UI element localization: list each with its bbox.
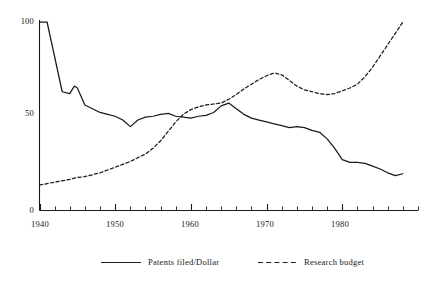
series-line-patents-filed-dollar (40, 22, 403, 176)
x-tick-label-1970: 1970 (247, 219, 283, 229)
chart-axes (40, 20, 419, 211)
y-tick-label-100: 100 (8, 16, 34, 26)
legend-item-research-budget: Research budget (304, 257, 364, 267)
x-axis-ticks (41, 204, 419, 211)
y-tick-label-50: 50 (8, 108, 34, 118)
y-tick-label-0: 0 (8, 205, 34, 215)
chart-container: 100 50 0 1940 1950 1960 1970 1980 Patent… (0, 0, 435, 289)
x-tick-label-1960: 1960 (172, 219, 208, 229)
series-line-research-budget (40, 22, 403, 185)
x-tick-label-1950: 1950 (97, 219, 133, 229)
line-chart-plot (0, 0, 435, 289)
x-tick-label-1980: 1980 (322, 219, 358, 229)
legend-item-patents-filed-dollar: Patents filed/Dollar (148, 257, 219, 267)
x-tick-label-1940: 1940 (22, 219, 58, 229)
chart-series-group (40, 22, 403, 185)
